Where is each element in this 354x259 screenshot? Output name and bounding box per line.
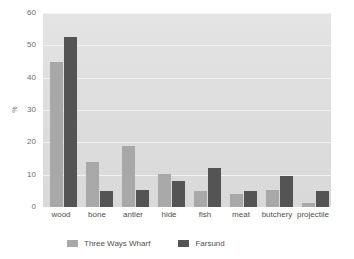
bar-group <box>223 13 259 207</box>
x-axis-tick-labels: woodboneantlerhidefishmeatbutcheryprojec… <box>43 209 331 225</box>
bar-group <box>295 13 331 207</box>
bar[interactable] <box>86 162 99 207</box>
bar[interactable] <box>136 190 149 207</box>
y-axis-tick-label: 50 <box>2 41 36 49</box>
bar[interactable] <box>64 37 77 207</box>
bar[interactable] <box>208 168 221 207</box>
y-axis-tick-label: 60 <box>2 9 36 17</box>
y-axis-tick-label: 20 <box>2 138 36 146</box>
bar[interactable] <box>100 191 113 207</box>
bar[interactable] <box>266 190 279 207</box>
bar[interactable] <box>244 191 257 207</box>
y-axis-tick-label: 40 <box>2 74 36 82</box>
x-axis-tick-label: wood <box>43 209 79 225</box>
legend-item[interactable]: Farsund <box>178 239 224 248</box>
bar-group <box>79 13 115 207</box>
x-axis-tick-label: fish <box>187 209 223 225</box>
bar[interactable] <box>172 181 185 207</box>
bar[interactable] <box>280 176 293 207</box>
bar[interactable] <box>230 194 243 207</box>
x-axis-tick-label: meat <box>223 209 259 225</box>
x-axis-tick-label: projectile <box>295 209 331 225</box>
x-axis-tick-label: bone <box>79 209 115 225</box>
bar[interactable] <box>194 191 207 207</box>
y-axis-tick-label: 30 <box>2 106 36 114</box>
bar-group <box>259 13 295 207</box>
bar-chart: % 0102030405060 woodboneantlerhidefishme… <box>0 0 354 259</box>
bar-group <box>115 13 151 207</box>
plot-area <box>43 13 331 207</box>
bar-groups <box>43 13 331 207</box>
bar[interactable] <box>158 174 171 207</box>
legend-swatch <box>67 240 78 247</box>
bar[interactable] <box>50 62 63 208</box>
chart-legend: Three Ways WharfFarsund <box>43 236 331 250</box>
x-axis-tick-label: antler <box>115 209 151 225</box>
x-axis-tick-label: hide <box>151 209 187 225</box>
bar[interactable] <box>122 146 135 207</box>
y-axis-tick-labels: 0102030405060 <box>0 0 40 259</box>
bar-group <box>151 13 187 207</box>
legend-label: Farsund <box>195 239 224 248</box>
y-axis-tick-label: 10 <box>2 171 36 179</box>
x-axis-tick-label: butchery <box>259 209 295 225</box>
bar-group <box>43 13 79 207</box>
bar[interactable] <box>316 191 329 207</box>
legend-label: Three Ways Wharf <box>84 239 150 248</box>
y-axis-tick-label: 0 <box>2 203 36 211</box>
legend-item[interactable]: Three Ways Wharf <box>67 239 150 248</box>
bar[interactable] <box>302 203 315 207</box>
legend-swatch <box>178 240 189 247</box>
bar-group <box>187 13 223 207</box>
